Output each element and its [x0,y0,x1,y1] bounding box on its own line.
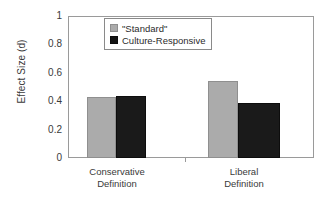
legend-label-standard: "Standard" [122,23,167,34]
black-swatch-icon [110,36,118,44]
y-tick-label-0.4: 0.4 [26,96,62,106]
y-tick-label-0.8: 0.8 [26,39,62,49]
legend-label-culture-responsive: Culture-Responsive [122,35,205,46]
legend-item-culture-responsive: Culture-Responsive [110,34,205,46]
x-category-label-conservative-line2: Definition [62,178,172,190]
gray-swatch-icon [110,24,118,32]
bar-chart-figure: Effect Size (d) 1 0.8 0.6 0.4 0.2 0 Cons… [0,0,327,207]
legend-item-standard: "Standard" [110,22,205,34]
bar-standard-liberal [208,81,238,158]
bar-culture-responsive-liberal [238,103,280,158]
x-category-label-liberal: Liberal Definition [189,166,299,190]
x-category-label-liberal-line2: Definition [189,178,299,190]
category-separator-tick [185,158,186,162]
y-tick-label-0: 0 [26,153,62,163]
x-category-label-liberal-line1: Liberal [230,166,259,177]
bar-culture-responsive-conservative [116,96,146,158]
x-category-label-conservative-line1: Conservative [89,166,144,177]
y-axis-title: Effect Size (d) [16,12,27,132]
y-tick-label-0.6: 0.6 [26,68,62,78]
chart-legend: "Standard" Culture-Responsive [104,18,212,50]
y-axis-tick-labels: 1 0.8 0.6 0.4 0.2 0 [26,0,62,207]
bar-standard-conservative [87,97,116,158]
x-category-label-conservative: Conservative Definition [62,166,172,190]
y-tick-label-1: 1 [26,11,62,21]
y-tick-label-0.2: 0.2 [26,125,62,135]
